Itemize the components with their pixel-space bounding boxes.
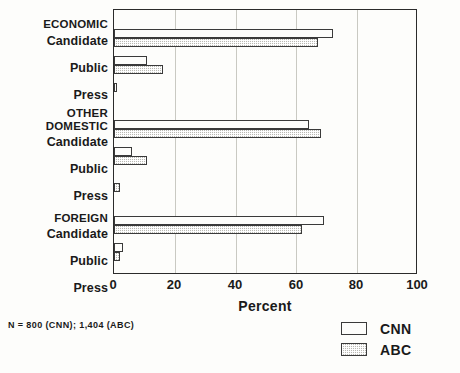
y-label-economic-public: Public <box>70 61 108 75</box>
bar-cnn-economic-candidate <box>114 29 333 38</box>
bar-cnn-foreign-candidate <box>114 216 324 225</box>
x-tick-100: 100 <box>406 277 428 292</box>
legend-item-cnn: CNN <box>341 318 412 339</box>
legend-swatch-cnn-icon <box>341 322 367 335</box>
chart-legend: CNN ABC <box>341 318 412 360</box>
bar-cnn-economic-public <box>114 56 147 65</box>
plot-area <box>113 9 417 274</box>
y-label-domestic-public: Public <box>70 162 108 176</box>
bar-abc-foreign-public <box>114 252 120 261</box>
x-tick-80: 80 <box>349 277 363 292</box>
y-label-foreign-public: Public <box>70 254 108 268</box>
y-group-title-other: OTHER <box>67 107 108 119</box>
bar-cnn-domestic-candidate <box>114 120 309 129</box>
bar-cnn-economic-press <box>114 83 117 92</box>
y-group-title-economic: ECONOMIC <box>43 18 108 30</box>
chart-footnote: N = 800 (CNN); 1,404 (ABC) <box>8 320 134 330</box>
y-label-domestic-press: Press <box>73 189 108 203</box>
bar-cnn-domestic-public <box>114 147 132 156</box>
x-tick-40: 40 <box>228 277 242 292</box>
y-axis-labels: ECONOMIC Candidate Public Press OTHER DO… <box>0 9 108 274</box>
bar-abc-domestic-candidate <box>114 129 321 138</box>
x-tick-20: 20 <box>167 277 181 292</box>
y-group-title-foreign: FOREIGN <box>54 212 108 224</box>
y-group-title-domestic: DOMESTIC <box>46 120 108 132</box>
bar-abc-economic-public <box>114 65 163 74</box>
x-tick-0: 0 <box>109 277 116 292</box>
bar-abc-domestic-press <box>114 183 120 192</box>
x-axis-title: Percent <box>113 298 417 314</box>
chart-figure: ECONOMIC Candidate Public Press OTHER DO… <box>0 0 460 373</box>
bar-abc-economic-candidate <box>114 38 318 47</box>
gridline-80 <box>357 10 358 273</box>
x-tick-60: 60 <box>289 277 303 292</box>
legend-swatch-abc-icon <box>341 343 367 356</box>
y-label-economic-candidate: Candidate <box>47 34 108 48</box>
bar-abc-domestic-public <box>114 156 147 165</box>
bar-abc-foreign-candidate <box>114 225 302 234</box>
y-label-domestic-candidate: Candidate <box>47 135 108 149</box>
y-label-economic-press: Press <box>73 88 108 102</box>
legend-label-cnn: CNN <box>380 321 412 337</box>
legend-label-abc: ABC <box>380 342 412 358</box>
x-axis-ticks: 0 20 40 60 80 100 <box>0 277 460 297</box>
y-label-foreign-candidate: Candidate <box>47 227 108 241</box>
legend-item-abc: ABC <box>341 339 412 360</box>
bar-cnn-foreign-public <box>114 243 123 252</box>
